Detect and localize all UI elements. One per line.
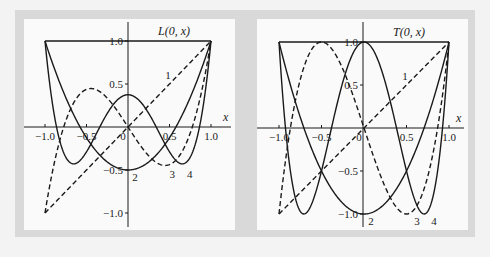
x-tick-label: 1.0 [204, 130, 218, 142]
y-tick-label: −1.0 [103, 207, 123, 219]
x-tick-label: −0.5 [77, 130, 97, 142]
x-tick-label: 1.0 [442, 131, 456, 143]
x-axis-label: x [455, 111, 462, 125]
x-axis-label: x [222, 110, 229, 124]
x-tick-label: 0.5 [400, 131, 414, 143]
chart-title: L(0, x) [157, 24, 190, 38]
chart-title: T(0, x) [393, 25, 425, 39]
curve-label: 3 [170, 168, 176, 180]
x-tick-label: −1.0 [35, 130, 55, 142]
y-tick-label: 0.5 [109, 78, 123, 90]
y-tick-label: −1.0 [338, 208, 358, 220]
figure-canvas: −1.0−0.500.51.0−1.0−0.50.51.0xL(0, x)123… [0, 0, 490, 257]
y-tick-label: −0.5 [338, 165, 358, 177]
curve-label: 4 [431, 215, 437, 227]
curve-label: 1 [165, 69, 171, 81]
legendre-panel: −1.0−0.500.51.0−1.0−0.50.51.0xL(0, x)123… [24, 19, 235, 230]
curve-label: 3 [414, 215, 420, 227]
figure: −1.0−0.500.51.0−1.0−0.50.51.0xL(0, x)123… [0, 0, 490, 257]
x-tick-label: 0.5 [163, 130, 177, 142]
curve-label: 4 [187, 168, 193, 180]
curve-label: 2 [132, 171, 138, 183]
curve-label: 1 [402, 70, 408, 82]
curve-label: 2 [368, 215, 374, 227]
chebyshev-panel: −1.0−0.500.51.0−1.0−0.50.51.0xT(0, x)123… [257, 19, 468, 230]
y-tick-label: 0.5 [344, 79, 358, 91]
